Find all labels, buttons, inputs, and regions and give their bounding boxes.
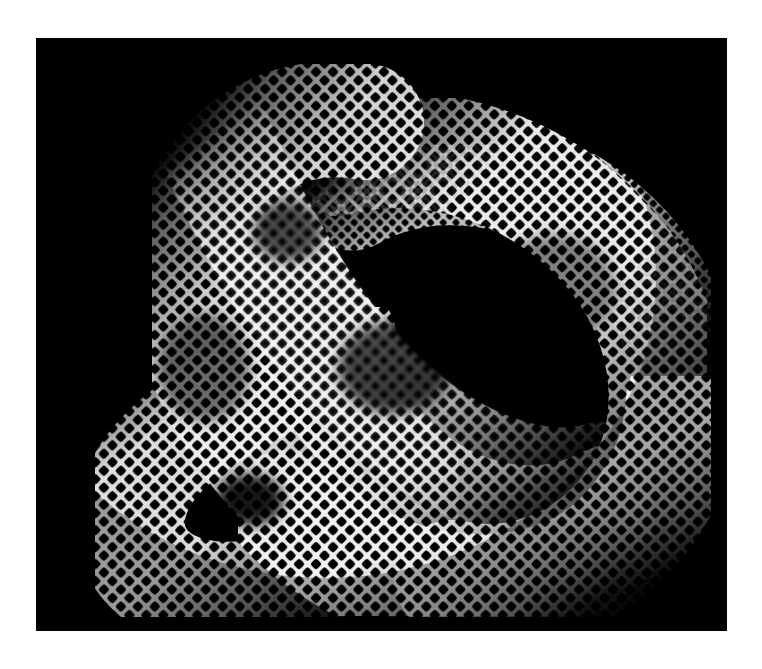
figure-root: A white square-mesh textured tube formin… xyxy=(0,0,762,669)
torus-knot-illustration xyxy=(36,38,727,631)
knot-canvas: A white square-mesh textured tube formin… xyxy=(36,38,727,631)
specular-highlight xyxy=(36,38,727,631)
